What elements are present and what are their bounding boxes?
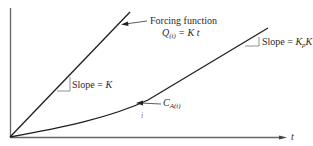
slope-k-label: Slope = K [72, 80, 112, 90]
response-pointer-line [140, 103, 161, 104]
slope-k-triangle [57, 77, 70, 91]
slope-kpk-text: Slope = [262, 36, 295, 47]
q-subscript: (t) [169, 32, 176, 40]
c-subscript: A(t) [170, 102, 181, 110]
forcing-pointer-line [125, 21, 147, 24]
forcing-function-line [10, 12, 130, 137]
q-equation: = K t [176, 27, 200, 38]
x-axis-label: t [291, 132, 294, 142]
response-label: CA(t) [163, 98, 181, 110]
small-mark-label: i [141, 112, 143, 120]
slope-kpk-label: Slope = KpK [262, 37, 312, 49]
slope-k-symbol: K [306, 36, 313, 47]
forcing-pointer-arrow-icon [121, 22, 129, 27]
x-axis-arrow-icon [279, 136, 287, 140]
slope-k-value: K [105, 79, 112, 90]
slope-k-text: Slope = [72, 79, 105, 90]
c-symbol: C [163, 97, 170, 108]
forcing-function-equation: Q(t) = K t [162, 28, 200, 40]
forcing-function-label: Forcing function [150, 16, 217, 26]
forcing-function-title: Forcing function [150, 15, 217, 26]
response-curve [10, 28, 268, 137]
